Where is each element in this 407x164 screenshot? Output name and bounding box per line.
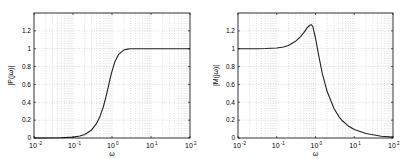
x-tick-exponent: -1	[281, 141, 285, 146]
y-tick-label: 1.2	[226, 27, 235, 34]
y-axis-label: |P(jω)|	[7, 65, 15, 85]
x-tick-exponent: 0	[320, 141, 323, 146]
x-tick-exponent: 2	[397, 141, 400, 146]
x-axis-label: ω	[109, 150, 115, 157]
y-tick-label: 0.2	[22, 116, 31, 123]
x-tick-label: 10	[107, 142, 115, 149]
y-tick-label: 0.6	[226, 81, 235, 88]
x-axis-label: ω	[313, 150, 319, 157]
x-tick-exponent: 1	[358, 141, 361, 146]
y-tick-label: 0	[231, 134, 235, 141]
plot-m-magnitude: 10-210-110010110200.20.40.60.811.2ω|M(jω…	[212, 13, 400, 157]
x-tick-exponent: 0	[116, 141, 119, 146]
y-tick-label: 0.8	[226, 63, 235, 70]
y-tick-label: 1	[27, 45, 31, 52]
x-tick-label: 10	[146, 142, 154, 149]
y-tick-label: 0.4	[22, 99, 31, 106]
x-tick-label: 10	[29, 142, 37, 149]
x-tick-label: 10	[388, 142, 396, 149]
y-tick-label: 1	[231, 45, 235, 52]
x-tick-label: 10	[272, 142, 280, 149]
x-tick-exponent: 2	[194, 141, 197, 146]
y-tick-label: 0.4	[226, 99, 235, 106]
y-tick-label: 1.2	[22, 27, 31, 34]
x-tick-label: 10	[233, 142, 241, 149]
y-axis-label: |M(jω)|	[212, 65, 220, 86]
x-tick-exponent: 1	[155, 141, 158, 146]
y-tick-label: 0.8	[22, 63, 31, 70]
plot-p-magnitude: 10-210-110010110200.20.40.60.811.2ω|P(jω…	[7, 13, 197, 157]
figure: 10-210-110010110200.20.40.60.811.2ω|P(jω…	[0, 0, 407, 164]
y-tick-label: 0.2	[226, 116, 235, 123]
x-tick-label: 10	[68, 142, 76, 149]
x-tick-label: 10	[185, 142, 193, 149]
y-tick-label: 0	[27, 134, 31, 141]
x-tick-exponent: -1	[77, 141, 81, 146]
x-tick-exponent: -2	[38, 141, 42, 146]
y-tick-label: 0.6	[22, 81, 31, 88]
x-tick-label: 10	[311, 142, 319, 149]
x-tick-exponent: -2	[242, 141, 246, 146]
x-tick-label: 10	[349, 142, 357, 149]
